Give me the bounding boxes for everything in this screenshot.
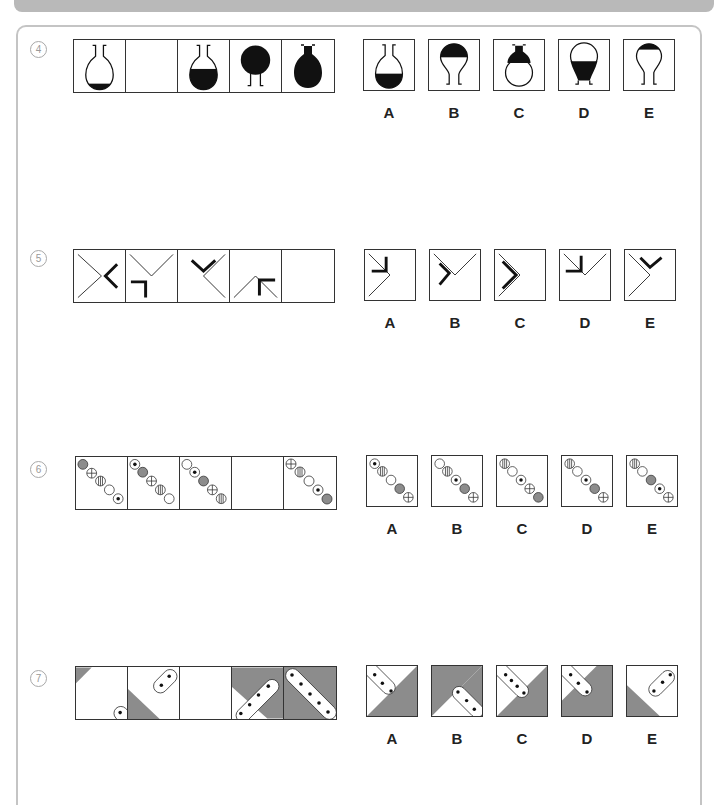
bead-chain-icon xyxy=(180,457,231,509)
q7-option-e[interactable] xyxy=(626,665,678,717)
q7-seq-1 xyxy=(76,667,128,719)
q6-label-a: A xyxy=(366,520,418,537)
bead-chain-icon xyxy=(76,457,127,509)
q7-seq-5 xyxy=(284,667,336,719)
bead-chain-icon xyxy=(284,457,336,509)
bead-chain-icon xyxy=(432,456,482,506)
q6-option-c[interactable] xyxy=(496,455,548,507)
q7-label-c: C xyxy=(496,730,548,747)
corner-shape-icon xyxy=(497,666,547,716)
corner-shape-icon xyxy=(562,666,612,716)
q6-seq-5 xyxy=(284,457,336,509)
corner-shape-icon xyxy=(232,667,283,719)
q7-label-d: D xyxy=(561,730,613,747)
q7-option-c[interactable] xyxy=(496,665,548,717)
bead-chain-icon xyxy=(128,457,179,509)
bead-chain-icon xyxy=(627,456,677,506)
q6-sequence xyxy=(75,456,337,510)
q7-seq-blank xyxy=(180,667,232,719)
corner-shape-icon xyxy=(627,666,677,716)
q6-seq-3 xyxy=(180,457,232,509)
q7-option-b[interactable] xyxy=(431,665,483,717)
q6-seq-blank xyxy=(232,457,284,509)
bead-chain-icon xyxy=(497,456,547,506)
q6-label-c: C xyxy=(496,520,548,537)
q7-seq-4 xyxy=(232,667,284,719)
q7-option-d[interactable] xyxy=(561,665,613,717)
q6-label-e: E xyxy=(626,520,678,537)
q7-label-e: E xyxy=(626,730,678,747)
question-number-7: 7 xyxy=(30,670,47,687)
q7-sequence xyxy=(75,666,337,720)
bead-chain-icon xyxy=(367,456,417,506)
corner-shape-icon xyxy=(367,666,417,716)
q6-seq-1 xyxy=(76,457,128,509)
q7-option-a[interactable] xyxy=(366,665,418,717)
corner-shape-icon xyxy=(76,667,127,719)
q7-seq-2 xyxy=(128,667,180,719)
q6-seq-2 xyxy=(128,457,180,509)
q7-label-b: B xyxy=(431,730,483,747)
corner-shape-icon xyxy=(128,667,179,719)
q7-label-a: A xyxy=(366,730,418,747)
q6-option-d[interactable] xyxy=(561,455,613,507)
q6-option-e[interactable] xyxy=(626,455,678,507)
q6-label-d: D xyxy=(561,520,613,537)
q6-option-a[interactable] xyxy=(366,455,418,507)
question-number-6: 6 xyxy=(30,461,47,478)
corner-shape-icon xyxy=(432,666,482,716)
q6-option-b[interactable] xyxy=(431,455,483,507)
bead-chain-icon xyxy=(562,456,612,506)
q6-label-b: B xyxy=(431,520,483,537)
corner-shape-icon xyxy=(284,667,336,719)
